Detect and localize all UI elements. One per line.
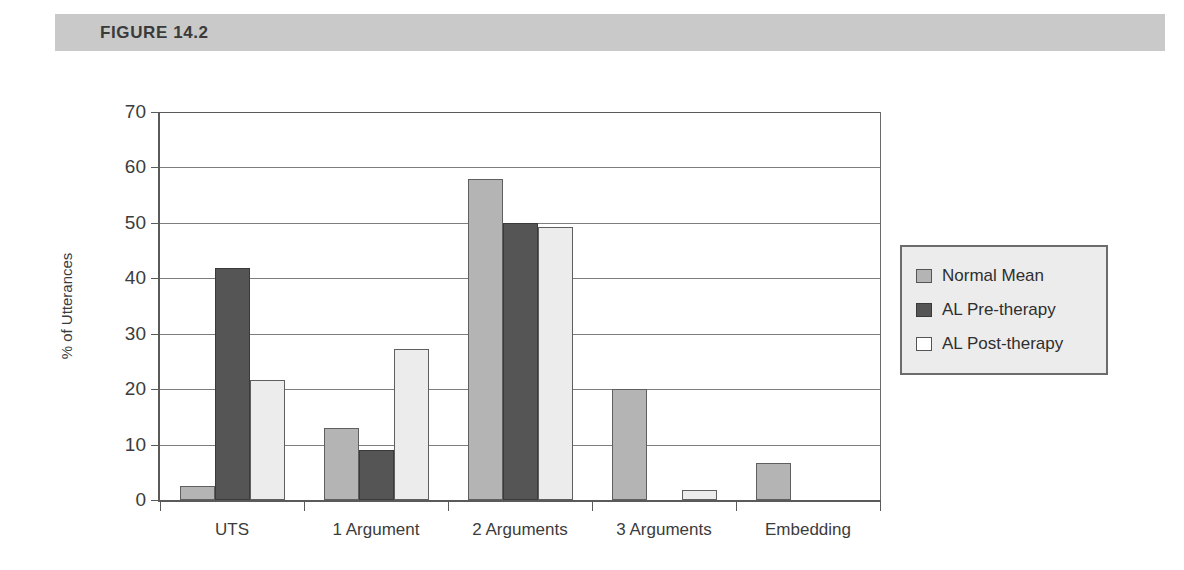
figure-header-band: FIGURE 14.2	[55, 14, 1165, 51]
legend-swatch-icon	[916, 269, 932, 283]
y-axis-tick-label: 0	[135, 489, 146, 511]
y-axis-tick	[151, 278, 160, 279]
bar-uts-series-0	[180, 486, 215, 500]
legend-item-label: AL Post-therapy	[942, 334, 1063, 354]
legend-item-label: Normal Mean	[942, 266, 1044, 286]
y-axis-tick-label: 20	[125, 378, 146, 400]
legend-swatch-icon	[916, 303, 932, 317]
bar-chart: % of Utterances 010203040506070 UTS1 Arg…	[0, 60, 1184, 570]
x-axis-category-label: 3 Arguments	[616, 520, 711, 540]
y-axis-title: % of Utterances	[58, 253, 75, 360]
legend-item-label: AL Pre-therapy	[942, 300, 1056, 320]
x-axis-category-label: 1 Argument	[333, 520, 420, 540]
y-axis-tick	[151, 223, 160, 224]
y-axis-tick	[151, 112, 160, 113]
bar-1-argument-series-0	[324, 428, 359, 500]
bar-2-arguments-series-1	[503, 223, 538, 500]
bar-1-argument-series-2	[394, 349, 429, 500]
legend-swatch-icon	[916, 337, 932, 351]
bar-3-arguments-series-0	[612, 389, 647, 500]
x-axis-tick	[880, 500, 881, 511]
y-axis-tick	[151, 500, 160, 501]
y-axis-tick-label: 40	[125, 267, 146, 289]
figure-number-label: FIGURE 14.2	[100, 23, 209, 43]
bars-layer	[160, 112, 880, 500]
bar-uts-series-1	[215, 268, 250, 500]
y-axis-tick-label: 50	[125, 212, 146, 234]
x-axis-category-label: Embedding	[765, 520, 851, 540]
bar-uts-series-2	[250, 380, 285, 500]
x-axis-tick	[736, 500, 737, 511]
y-axis-tick-label: 70	[125, 101, 146, 123]
bar-2-arguments-series-0	[468, 179, 503, 500]
legend-item-normal-mean[interactable]: Normal Mean	[916, 259, 1096, 293]
y-axis-tick	[151, 334, 160, 335]
bar-1-argument-series-1	[359, 450, 394, 500]
y-axis-tick	[151, 389, 160, 390]
y-axis-tick	[151, 445, 160, 446]
bar-2-arguments-series-2	[538, 227, 573, 500]
bar-embedding-series-0	[756, 463, 791, 500]
y-axis-tick-label: 30	[125, 323, 146, 345]
x-axis-category-label: 2 Arguments	[472, 520, 567, 540]
y-axis-tick	[151, 167, 160, 168]
legend-item-al-post-therapy[interactable]: AL Post-therapy	[916, 327, 1096, 361]
x-axis-tick	[448, 500, 449, 511]
plot-area: 010203040506070 UTS1 Argument2 Arguments…	[158, 112, 881, 502]
y-axis-tick-label: 10	[125, 434, 146, 456]
x-axis-tick	[160, 500, 161, 511]
legend-item-al-pre-therapy[interactable]: AL Pre-therapy	[916, 293, 1096, 327]
y-axis-tick-label: 60	[125, 156, 146, 178]
bar-3-arguments-series-2	[682, 490, 717, 500]
x-axis-category-label: UTS	[215, 520, 249, 540]
x-axis-tick	[304, 500, 305, 511]
x-axis-tick	[592, 500, 593, 511]
chart-legend: Normal MeanAL Pre-therapyAL Post-therapy	[900, 245, 1108, 375]
